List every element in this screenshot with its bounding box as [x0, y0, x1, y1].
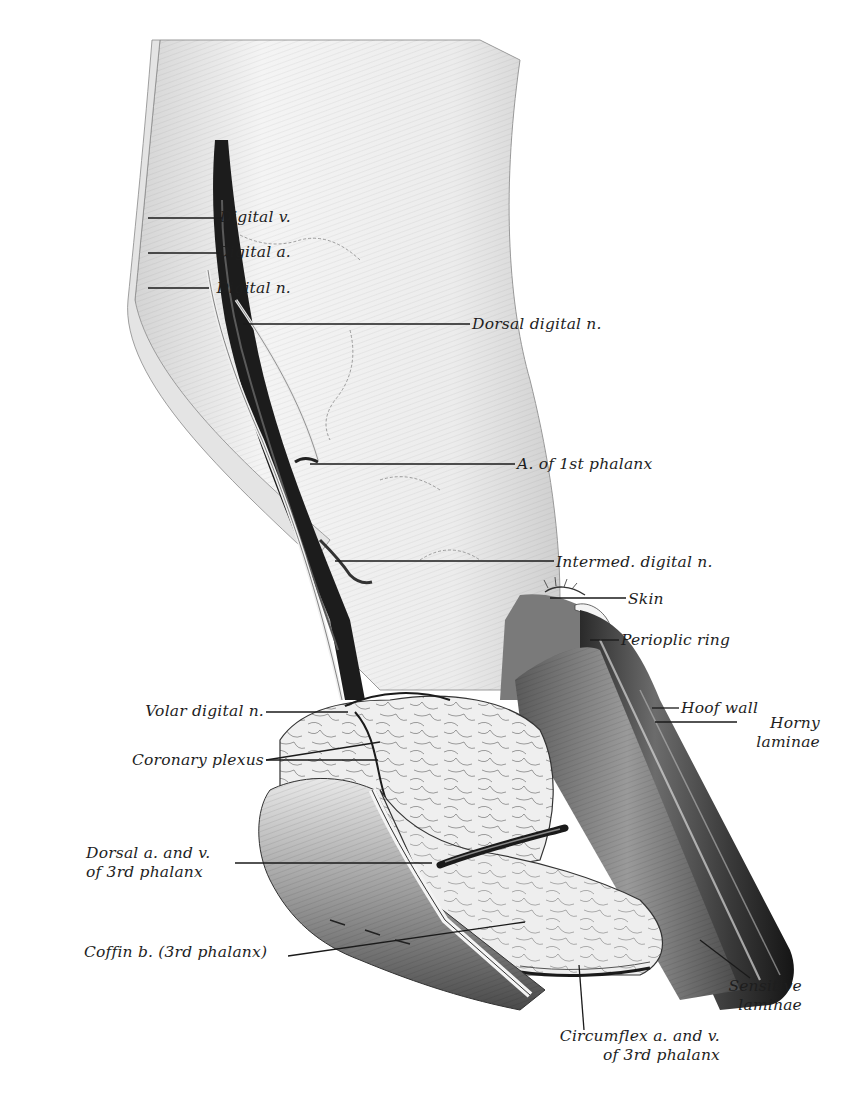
pastern-bone [128, 40, 560, 690]
label-volar-digital-n: Volar digital n. [108, 702, 264, 721]
label-coffin-b: Coffin b. (3rd phalanx) [84, 943, 294, 962]
label-sensitive-laminae: Sensitive laminae [716, 977, 802, 1015]
label-perioplic-ring: Perioplic ring [621, 631, 781, 650]
label-horny-laminae: Horny laminae [730, 714, 820, 752]
label-intermed-digital-n: Intermed. digital n. [556, 553, 776, 572]
label-digital-n: Digital n. [143, 279, 291, 298]
label-a-1st-phalanx: A. of 1st phalanx [517, 455, 717, 474]
label-coronary-plexus: Coronary plexus [108, 751, 264, 770]
label-digital-v: Digital v. [143, 208, 291, 227]
label-circumflex-av-3rd: Circumflex a. and v. of 3rd phalanx [544, 1027, 720, 1065]
label-dorsal-av-3rd: Dorsal a. and v. of 3rd phalanx [86, 844, 246, 882]
label-dorsal-digital-n: Dorsal digital n. [472, 315, 672, 334]
label-skin: Skin [628, 590, 688, 609]
label-digital-a: Digital a. [143, 243, 291, 262]
